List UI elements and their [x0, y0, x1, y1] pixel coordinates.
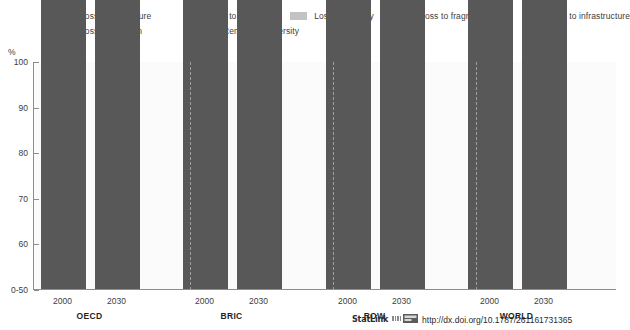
bar-segment-remaining-diversity: [380, 0, 425, 289]
y-tick-label-70: 70: [0, 194, 28, 204]
y-tick-label-90: 90: [0, 103, 28, 113]
statlink-footer[interactable]: StatLink http://dx.doi.org/10.1787/26116…: [352, 314, 572, 325]
x-label-world-2000: 2000: [460, 296, 520, 306]
stacked-bar-chart: Loss to agriculture Loss to climate Loss…: [0, 0, 630, 330]
bar-row-2030[interactable]: [380, 0, 425, 289]
y-tick-mark-80: [34, 153, 39, 154]
x-label-world-2030: 2030: [514, 296, 574, 306]
bar-oecd-2000[interactable]: [41, 0, 86, 289]
y-tick-mark-100: [34, 62, 39, 63]
y-tick-label-0-50: 0-50: [0, 285, 28, 295]
bar-segment-remaining-diversity: [522, 0, 567, 289]
y-tick-label-60: 60: [0, 239, 28, 249]
y-tick-label-80: 80: [0, 148, 28, 158]
x-label-row-2030: 2030: [372, 296, 432, 306]
x-label-bric-2030: 2030: [229, 296, 289, 306]
y-tick-label-100: 100: [0, 57, 28, 67]
y-tick-mark-60: [34, 244, 39, 245]
y-tick-mark-70: [34, 199, 39, 200]
group-label-oecd: OECD: [20, 311, 160, 321]
statlink-url[interactable]: http://dx.doi.org/10.1787/261161731365: [422, 315, 572, 325]
bar-segment-remaining-diversity: [95, 0, 140, 289]
group-label-bric: BRIC: [162, 311, 302, 321]
y-tick-mark-50: [34, 290, 39, 291]
group-separator-3: [476, 62, 477, 290]
y-axis-unit-label: %: [8, 47, 16, 57]
bar-segment-remaining-diversity: [468, 0, 513, 289]
legend-swatch-forestry: [290, 12, 307, 20]
x-label-oecd-2000: 2000: [33, 296, 93, 306]
bar-oecd-2030[interactable]: [95, 0, 140, 289]
y-tick-mark-90: [34, 108, 39, 109]
plot-area: [33, 62, 616, 290]
bar-bric-2030[interactable]: [237, 0, 282, 289]
bar-world-2000[interactable]: [468, 0, 513, 289]
x-label-row-2000: 2000: [318, 296, 378, 306]
x-label-bric-2000: 2000: [175, 296, 235, 306]
bar-segment-remaining-diversity: [41, 0, 86, 289]
statlink-label: StatLink: [352, 315, 388, 324]
x-label-oecd-2030: 2030: [87, 296, 147, 306]
bar-segment-remaining-diversity: [237, 0, 282, 289]
group-separator-1: [190, 62, 191, 290]
statlink-barcode-icon: [392, 314, 418, 325]
bar-world-2030[interactable]: [522, 0, 567, 289]
group-separator-2: [333, 62, 334, 290]
